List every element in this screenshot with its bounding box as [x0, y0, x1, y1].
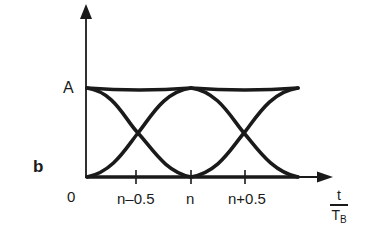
y-axis-arrow-icon: [80, 4, 92, 19]
level-a-label: A: [63, 80, 74, 96]
x-axis-arrow-icon: [317, 172, 333, 183]
tick-label-n: n: [186, 191, 194, 206]
tick-label-n-minus-half: n–0.5: [117, 191, 155, 206]
x-axis-label: t TB: [330, 188, 348, 225]
fraction-bar: [330, 204, 348, 206]
x-axis-label-denominator: TB: [331, 207, 346, 223]
eye-diagram: [0, 0, 367, 242]
panel-label: b: [33, 158, 43, 175]
trace-rising-left: [87, 88, 191, 177]
tick-label-n-plus-half: n+0.5: [228, 191, 266, 206]
x-axis-label-numerator: t: [337, 187, 341, 203]
origin-label: 0: [67, 189, 75, 204]
trace-rising-right: [191, 88, 298, 177]
